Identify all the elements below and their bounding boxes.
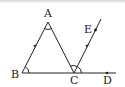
angle-mark-a	[45, 29, 52, 30]
angle-mark-acb	[70, 65, 77, 66]
segment-ac	[48, 22, 74, 73]
angle-mark-ecd	[77, 67, 81, 73]
label-b: B	[11, 68, 19, 81]
label-a: A	[43, 7, 53, 20]
label-c: C	[70, 74, 78, 87]
angle-mark-b	[25, 67, 29, 73]
triangle-diagram: A B C D E	[0, 0, 125, 87]
parallel-arrow-ce	[85, 45, 89, 48]
label-d: D	[103, 74, 112, 87]
point-e	[94, 29, 97, 32]
label-e: E	[84, 23, 92, 36]
